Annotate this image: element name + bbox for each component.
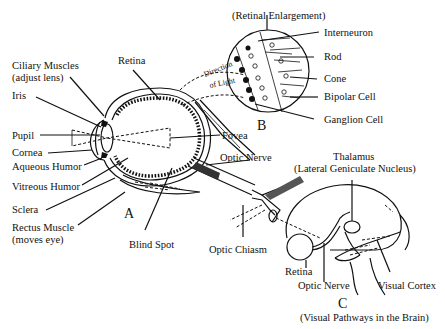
label-interneuron: Interneuron [324,27,374,38]
label-aqueous-humor: Aqueous Humor [12,161,82,172]
label-optic-nerve-brain: Optic Nerve [298,280,350,291]
label-vitreous-humor: Vitreous Humor [12,181,80,192]
label-thalamus: Thalamus [333,151,374,162]
label-retina-brain: Retina [285,266,313,277]
label-visual-cortex: Visual Cortex [378,280,437,291]
optic-chiasm-shape [230,176,304,228]
panel-letter-a: A [124,206,135,221]
brain-pathways [276,185,409,295]
labels: Ciliary Muscles (adjust lens) Iris Pupil… [12,10,437,324]
label-retina: Retina [118,55,146,66]
label-rectus-muscle: Rectus Muscle [12,222,74,233]
direction-of-light-label-2: of Light [209,76,237,90]
label-optic-chiasm: Optic Chiasm [209,244,267,255]
label-pupil: Pupil [12,130,34,141]
label-fovea: Fovea [222,130,248,141]
panel-letter-b: B [257,118,266,133]
label-bipolar-cell: Bipolar Cell [324,91,376,102]
label-ganglion-cell: Ganglion Cell [324,114,383,125]
panel-b-title: (Retinal Enlargement) [232,10,326,22]
label-cone: Cone [324,73,347,84]
label-iris: Iris [12,90,26,101]
direction-of-light-arrow: Direction of Light [180,59,245,105]
label-rectus-muscle-note: (moves eye) [12,234,64,246]
label-ciliary-muscles: Ciliary Muscles [12,60,79,71]
visual-system-diagram: Direction of Light [0,0,445,329]
label-cornea: Cornea [12,147,43,158]
panel-letter-c: C [338,296,347,311]
eye-cross-section [72,88,255,195]
label-ciliary-muscles-note: (adjust lens) [12,72,64,84]
label-optic-nerve-eye: Optic Nerve [220,152,272,163]
label-thalamus-note: (Lateral Geniculate Nucleus) [294,163,416,175]
label-rod: Rod [324,51,342,62]
label-sclera: Sclera [12,204,39,215]
label-blind-spot: Blind Spot [129,239,174,250]
panel-c-caption: (Visual Pathways in the Brain) [300,312,429,324]
